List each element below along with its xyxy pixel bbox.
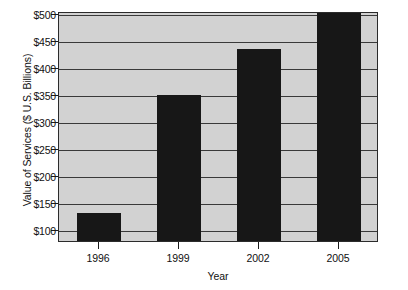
x-axis-tick-label: 2005 — [308, 252, 368, 264]
bar-1996 — [77, 213, 121, 241]
y-axis-tick-mark — [51, 203, 58, 204]
x-axis-tick-mark — [258, 242, 259, 249]
y-axis-tick-label-group: $500$450$400$350$300$250$200$150$100 — [18, 12, 56, 242]
y-axis-tick-label: $300 — [18, 118, 56, 128]
bar-1999 — [157, 95, 201, 241]
y-axis-tick-label: $350 — [18, 91, 56, 101]
y-axis-tick-mark — [51, 41, 58, 42]
x-axis-tick-mark — [178, 242, 179, 249]
y-axis-tick-label: $500 — [18, 10, 56, 20]
y-axis-tick-label: $400 — [18, 64, 56, 74]
y-axis-tick-label: $150 — [18, 199, 56, 209]
y-axis-tick-label: $100 — [18, 226, 56, 236]
bar-2002 — [237, 49, 281, 241]
y-axis-tick-label: $250 — [18, 145, 56, 155]
y-axis-tick-mark — [51, 68, 58, 69]
y-axis-tick-mark — [51, 95, 58, 96]
x-axis-tick-label: 2002 — [228, 252, 288, 264]
y-axis-tick-mark — [51, 149, 58, 150]
y-axis-tick-label: $200 — [18, 172, 56, 182]
x-axis-tick-label: 1996 — [68, 252, 128, 264]
bar-chart-figure: Value of Services ($ U.S. Billions) $500… — [0, 0, 408, 290]
x-axis-tick-mark — [98, 242, 99, 249]
x-axis-title: Year — [58, 270, 378, 282]
bar-2005 — [317, 12, 361, 241]
x-axis-tick-mark — [338, 242, 339, 249]
y-axis-tick-mark — [51, 230, 58, 231]
y-axis-tick-mark — [51, 14, 58, 15]
x-axis-tick-label: 1999 — [148, 252, 208, 264]
y-axis-tick-mark — [51, 176, 58, 177]
y-axis-tick-mark — [51, 122, 58, 123]
plot-area — [58, 12, 378, 242]
y-axis-tick-label: $450 — [18, 37, 56, 47]
